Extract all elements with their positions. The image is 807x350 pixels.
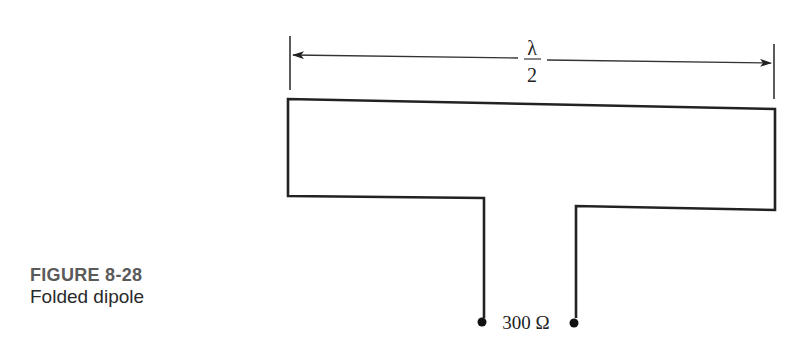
dimension-denominator: 2 <box>527 64 537 86</box>
figure-title: Folded dipole <box>30 286 144 308</box>
dipole-conductor <box>288 99 775 318</box>
feed-terminal-left <box>478 318 487 327</box>
dimension-numerator: λ <box>527 37 537 59</box>
figure-number: FIGURE 8-28 <box>30 264 144 286</box>
dimension-arrow-left <box>293 55 518 58</box>
dimension-arrow-right <box>547 60 771 63</box>
figure-caption: FIGURE 8-28 Folded dipole <box>30 264 144 308</box>
impedance-label: 300 Ω <box>502 312 549 333</box>
feed-terminal-right <box>570 319 579 328</box>
